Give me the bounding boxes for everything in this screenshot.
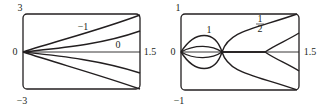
right-x-right-label: 1.5: [304, 46, 317, 57]
left-curve-lower-outer: [23, 52, 140, 89]
figure: 3 −3 0 1.5 −1 0 1 −1 0 1.5 1 1 2: [0, 0, 327, 109]
right-x-origin-label: 0: [171, 46, 176, 57]
left-curve-label-minus-one: −1: [78, 21, 89, 32]
half-denominator: 2: [258, 23, 263, 34]
right-curve-label-one: 1: [207, 24, 212, 35]
left-curve-label-zero: 0: [116, 39, 121, 50]
right-y-bottom-label: −1: [174, 95, 185, 106]
left-x-right-label: 1.5: [144, 46, 157, 57]
right-y-top-label: 1: [176, 2, 181, 13]
right-curve-label-half: 1 2: [256, 13, 264, 34]
left-plot: 3 −3 0 1.5 −1 0: [13, 2, 157, 106]
left-x-origin-label: 0: [13, 46, 18, 57]
right-plot: 1 −1 0 1.5 1 1 2: [171, 2, 317, 106]
left-y-top-label: 3: [18, 2, 23, 13]
left-y-bottom-label: −3: [17, 95, 28, 106]
